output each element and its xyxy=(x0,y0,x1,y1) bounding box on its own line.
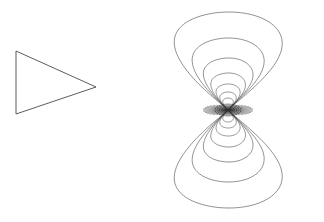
figure-canvas xyxy=(0,0,324,222)
figure-root xyxy=(0,0,324,222)
figure-background xyxy=(0,0,324,222)
singularity-core xyxy=(203,104,253,116)
